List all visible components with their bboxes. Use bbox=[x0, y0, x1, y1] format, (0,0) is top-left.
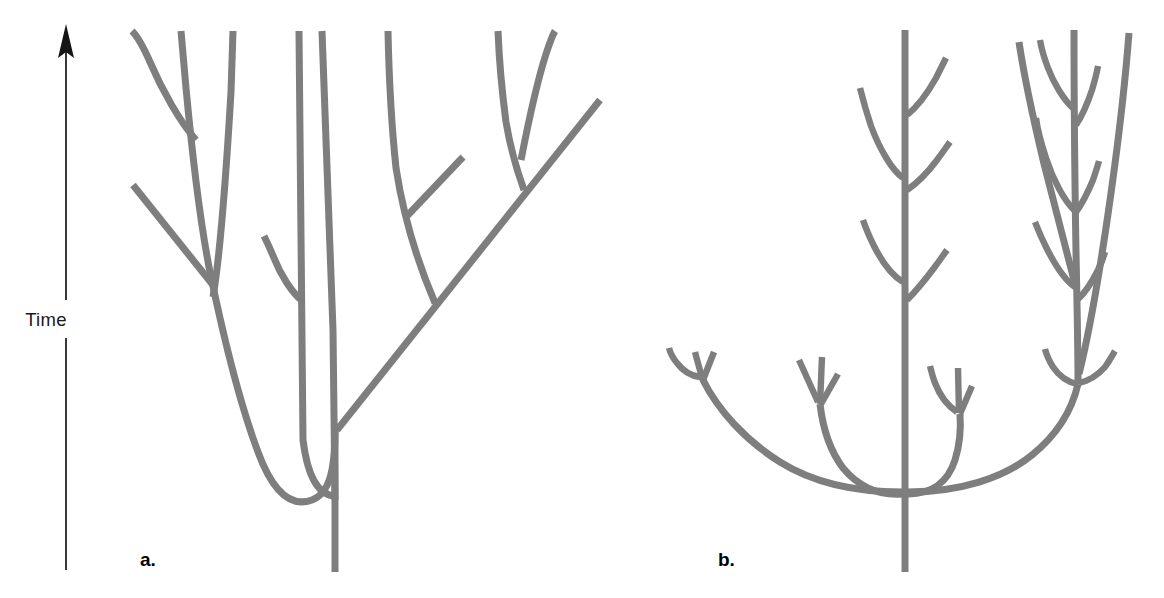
panel-b-innerright-tip-mid bbox=[958, 368, 959, 413]
panel-b-center-twig-1l bbox=[860, 88, 903, 178]
time-axis-group bbox=[58, 24, 74, 570]
panel-b-left-arc bbox=[703, 380, 902, 492]
panel-a-label: a. bbox=[140, 549, 156, 570]
panel-a-branch-center-twig bbox=[264, 236, 301, 300]
panel-a-branch-right-clade2 bbox=[498, 31, 524, 190]
panel-b-innerleft-tip-left bbox=[799, 360, 818, 402]
panel-b-center-twig-2r bbox=[907, 142, 950, 190]
panel-a-branch-right-clade1 bbox=[388, 31, 435, 303]
panel-b-innerright-tip-left bbox=[930, 366, 957, 412]
panel-b-right-twig-3l bbox=[1040, 40, 1073, 108]
panel-b-right-twig-2r bbox=[1076, 161, 1099, 212]
panel-a-branch-center-b bbox=[322, 31, 335, 500]
panel-a-branch-right-twig1 bbox=[407, 157, 463, 216]
figure-root: a. bbox=[0, 0, 1164, 598]
panel-a-branch-right-clade2-tip bbox=[521, 31, 555, 160]
panel-b-innerright-arc bbox=[908, 414, 960, 494]
panel-b-right-outer-stem bbox=[1079, 33, 1129, 374]
phylogeny-figure-svg: a. bbox=[0, 0, 1164, 598]
panel-a-tree: a. bbox=[132, 31, 600, 572]
panel-a-branch-left-main bbox=[181, 31, 335, 502]
time-axis-label: Time bbox=[25, 309, 67, 330]
panel-b-label: b. bbox=[718, 549, 735, 570]
panel-b-right-arc bbox=[908, 384, 1078, 492]
panel-b-right-arc-tip-left bbox=[1045, 349, 1077, 384]
panel-b-tree: b. bbox=[669, 30, 1129, 572]
panel-b-center-twig-2l bbox=[863, 220, 903, 282]
panel-a-branch-mid-left bbox=[213, 31, 233, 297]
panel-b-center-twig-3r bbox=[907, 250, 947, 300]
panel-b-right-twig-3r bbox=[1076, 66, 1098, 125]
panel-a-branch-right-main bbox=[337, 100, 600, 430]
panel-b-innerleft-tip-mid bbox=[820, 357, 822, 404]
panel-b-center-twig-1r bbox=[907, 58, 946, 115]
